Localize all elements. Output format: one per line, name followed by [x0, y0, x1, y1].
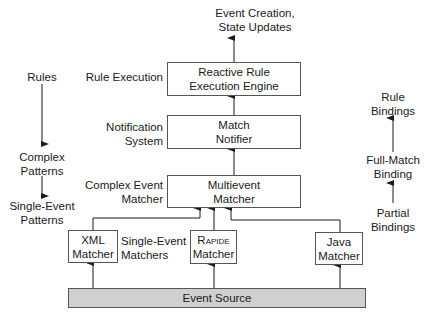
complex-patterns-line2: Patterns	[2, 164, 82, 178]
notification-line2: System	[60, 134, 163, 148]
rapide-line2: Matcher	[193, 247, 235, 261]
full-match-binding-label: Full-Match Binding	[360, 153, 426, 181]
rules-label: Rules	[2, 70, 82, 84]
reactive-line2: Execution Engine	[189, 79, 279, 93]
rule-bindings-label: Rule Bindings	[360, 90, 426, 118]
event-source-box: Event Source	[68, 288, 366, 308]
event-creation-line1: Event Creation,	[195, 6, 315, 20]
single-event-patterns-line2: Patterns	[2, 213, 82, 227]
single-event-line2: Matchers	[121, 248, 191, 262]
full-match-line2: Binding	[360, 167, 426, 181]
complex-patterns-line1: Complex	[2, 150, 82, 164]
event-source-label: Event Source	[182, 291, 251, 305]
complex-patterns-label: Complex Patterns	[2, 150, 82, 178]
complex-event-line1: Complex Event	[60, 178, 163, 192]
notification-system-label: Notification System	[60, 120, 163, 148]
event-creation-label: Event Creation, State Updates	[195, 6, 315, 34]
java-line2: Matcher	[318, 249, 360, 263]
multievent-matcher-box: Multievent Matcher	[167, 175, 301, 208]
match-notifier-box: Match Notifier	[167, 115, 301, 149]
java-line1: Java	[327, 235, 351, 249]
partial-bindings-label: Partial Bindings	[360, 206, 426, 234]
xml-matcher-box: XML Matcher	[68, 230, 118, 263]
notification-line1: Notification	[60, 120, 163, 134]
reactive-rule-engine-box: Reactive Rule Execution Engine	[167, 62, 301, 96]
rule-bindings-line2: Bindings	[360, 104, 426, 118]
xml-line2: Matcher	[72, 247, 114, 261]
xml-line1: XML	[81, 233, 105, 247]
notifier-line1: Match	[218, 118, 249, 132]
notifier-line2: Notifier	[216, 132, 252, 146]
single-event-line1: Single-Event	[121, 234, 191, 248]
partial-bindings-line1: Partial	[360, 206, 426, 220]
rapide-matcher-box: Rapide Matcher	[190, 230, 237, 264]
partial-bindings-line2: Bindings	[360, 220, 426, 234]
full-match-line1: Full-Match	[360, 153, 426, 167]
multievent-line1: Multievent	[208, 178, 260, 192]
reactive-line1: Reactive Rule	[198, 65, 270, 79]
rule-bindings-line1: Rule	[360, 90, 426, 104]
rapide-line1: Rapide	[197, 233, 229, 247]
java-matcher-box: Java Matcher	[315, 232, 363, 265]
multievent-line2: Matcher	[213, 192, 255, 206]
event-creation-line2: State Updates	[195, 20, 315, 34]
single-event-patterns-line1: Single-Event	[2, 199, 82, 213]
single-event-patterns-label: Single-Event Patterns	[2, 199, 82, 227]
single-event-matchers-label: Single-Event Matchers	[121, 234, 191, 262]
